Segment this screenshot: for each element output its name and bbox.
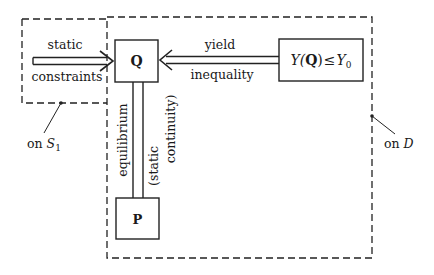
p-node-label: P (133, 212, 143, 227)
static-constraints-top-label: static (48, 37, 83, 52)
static-continuity-label-1: (static (146, 146, 161, 186)
static-continuity-label-2: continuity) (163, 95, 178, 164)
yield-inequality-bottom-label: inequality (190, 67, 254, 82)
equilibrium-label: equilibrium (115, 103, 130, 176)
s1-pointer (44, 101, 63, 133)
equilibrium-link (133, 82, 143, 198)
static-constraints-arrow (33, 51, 113, 71)
boundary-region-s1 (22, 19, 107, 103)
d-region-label: on D (384, 136, 414, 151)
static-constraints-bottom-label: constraints (32, 69, 103, 84)
q-node-label: Q (130, 53, 142, 69)
diagram-canvas: Q Y(Q)≤Y0 P static constraints yield ine… (0, 0, 434, 275)
yield-condition-label: Y(Q)≤Y0 (290, 52, 351, 70)
yield-inequality-top-label: yield (204, 37, 235, 52)
s1-region-label: on S1 (27, 136, 61, 153)
d-pointer (370, 114, 395, 134)
